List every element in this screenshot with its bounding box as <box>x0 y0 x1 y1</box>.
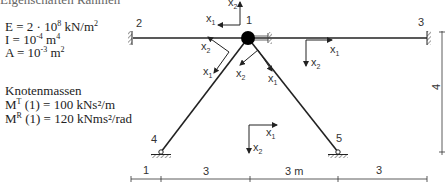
dim-vertical: 4 <box>430 84 442 90</box>
dim-1: 1 <box>143 164 149 176</box>
local-axes-beam-right-icon: x1 x2 <box>306 40 340 70</box>
svg-text:x1: x1 <box>330 43 340 57</box>
local-axes-beam-left-icon: x1 x2 <box>206 0 240 26</box>
column-1-4 <box>161 38 248 152</box>
frame-diagram: 2 3 1 4 5 x1 x2 x1 x2 x2 x1 x2 x1 x1 x2 <box>0 0 447 184</box>
pinned-support-5-icon <box>328 150 348 158</box>
global-axes-icon: x1 x2 <box>249 125 277 155</box>
node-label-3: 3 <box>418 16 424 28</box>
svg-text:x1: x1 <box>203 65 213 79</box>
dim-2: 3 <box>203 165 209 177</box>
svg-text:x2: x2 <box>201 40 211 54</box>
svg-text:x2: x2 <box>311 56 321 70</box>
svg-text:x1: x1 <box>206 12 216 26</box>
fixed-support-2-icon <box>128 31 132 45</box>
pinned-support-4-icon <box>151 150 171 158</box>
dim-4: 3 <box>376 164 382 176</box>
svg-text:x2: x2 <box>228 0 238 10</box>
node-label-1: 1 <box>246 14 252 26</box>
fixed-support-3-icon <box>427 31 431 45</box>
node-label-4: 4 <box>151 133 157 145</box>
vertical-dimension: 4 <box>430 31 445 155</box>
node-label-5: 5 <box>336 132 342 144</box>
svg-text:x2: x2 <box>236 67 246 81</box>
horizontal-dimension: 1 3 3 m 3 <box>131 164 427 182</box>
local-axes-column-left-icon: x2 x1 <box>201 37 229 79</box>
node-label-2: 2 <box>136 17 142 29</box>
dim-3: 3 m <box>285 165 303 177</box>
svg-text:x2: x2 <box>253 141 263 155</box>
node-1-mass-icon <box>241 31 255 45</box>
svg-text:x1: x1 <box>266 126 276 140</box>
